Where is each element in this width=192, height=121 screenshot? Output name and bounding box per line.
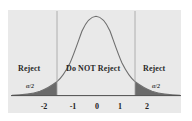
x-tick-label-plus-2: 2 [141, 103, 153, 111]
x-tick-label-minus-2: -2 [38, 103, 50, 111]
alpha-over-two-label-right: α/2 [152, 83, 160, 89]
do-not-reject-emphasis: NOT [78, 64, 96, 73]
x-tick-label-zero: 0 [91, 103, 103, 111]
do-not-reject-post: Reject [96, 64, 120, 73]
region-label-reject-right: Reject [143, 65, 165, 73]
region-label-reject-left: Reject [18, 65, 40, 73]
alpha-over-two-label-left: α/2 [26, 83, 34, 89]
normal-distribution-figure: Reject Do NOT Reject Reject α/2 α/2 -2 -… [0, 0, 192, 121]
x-tick-label-minus-1: -1 [67, 103, 79, 111]
do-not-reject-pre: Do [66, 64, 78, 73]
x-tick-label-plus-1: 1 [114, 103, 126, 111]
region-label-do-not-reject: Do NOT Reject [66, 65, 120, 73]
